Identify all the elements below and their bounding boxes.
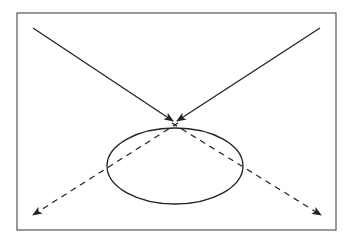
ray-diagram bbox=[0, 0, 347, 241]
diagram-frame bbox=[17, 13, 336, 230]
